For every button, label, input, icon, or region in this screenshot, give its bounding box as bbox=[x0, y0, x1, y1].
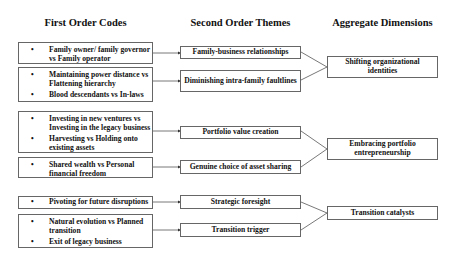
code-item: Shared wealth vs Personal financial free… bbox=[19, 161, 152, 178]
theme-box-family-business: Family-business relationships bbox=[180, 46, 301, 59]
theme-box-faultlines: Diminishing intra-family faultlines bbox=[180, 70, 301, 92]
code-item: Harvesting vs Holding onto existing asse… bbox=[19, 135, 152, 152]
code-item: Pivoting for future disruptions bbox=[19, 198, 152, 207]
first-order-box-3: Investing in new ventures vs Investing i… bbox=[18, 111, 153, 153]
first-order-box-5: Pivoting for future disruptions bbox=[18, 196, 153, 209]
theme-box-portfolio-value: Portfolio value creation bbox=[180, 126, 301, 139]
aggregate-box-identities: Shifting organizational identities bbox=[327, 56, 438, 78]
aggregate-box-portfolio-entrepreneurship: Embracing portfolio entrepreneurship bbox=[327, 138, 438, 160]
theme-box-transition-trigger: Transition trigger bbox=[180, 223, 301, 237]
first-order-box-1: Family owner/ family governor vs Family … bbox=[18, 42, 153, 64]
first-order-box-4: Shared wealth vs Personal financial free… bbox=[18, 157, 153, 178]
code-item: Maintaining power distance vs Flattening… bbox=[19, 71, 152, 88]
first-order-box-6: Natural evolution vs Planned transitionE… bbox=[18, 214, 153, 248]
code-item: Exit of legacy business bbox=[19, 238, 152, 247]
aggregate-box-transition-catalysts: Transition catalysts bbox=[327, 206, 438, 220]
theme-box-asset-sharing: Genuine choice of asset sharing bbox=[180, 160, 301, 174]
code-item: Blood descendants vs In-laws bbox=[19, 91, 152, 100]
code-item: Investing in new ventures vs Investing i… bbox=[19, 115, 152, 132]
code-item: Family owner/ family governor vs Family … bbox=[19, 46, 152, 63]
theme-box-strategic-foresight: Strategic foresight bbox=[180, 195, 301, 209]
code-item: Natural evolution vs Planned transition bbox=[19, 218, 152, 235]
first-order-box-2: Maintaining power distance vs Flattening… bbox=[18, 67, 153, 102]
